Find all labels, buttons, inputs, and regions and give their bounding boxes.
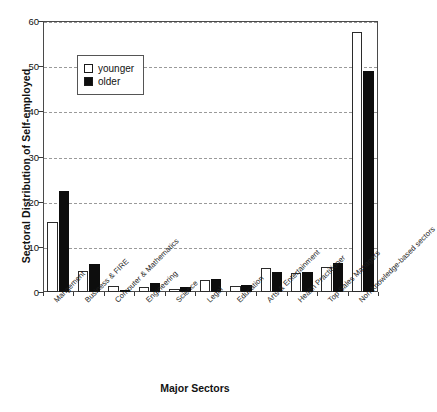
x-tick-mark xyxy=(317,292,318,296)
gridline xyxy=(44,22,377,23)
x-tick-mark xyxy=(165,292,166,296)
y-tick-mark xyxy=(38,21,43,22)
x-tick-mark xyxy=(195,292,196,296)
gridline xyxy=(44,248,377,249)
legend-label-younger: younger xyxy=(98,63,134,74)
x-tick-mark xyxy=(43,292,44,296)
open-square-swatch-icon xyxy=(84,64,93,73)
y-tick-label: 50 xyxy=(9,61,39,72)
y-tick-mark xyxy=(38,66,43,67)
y-tick-mark xyxy=(38,202,43,203)
legend-item-older: older xyxy=(84,76,134,87)
x-tick-mark xyxy=(378,292,379,296)
filled-square-swatch-icon xyxy=(84,77,93,86)
x-tick-mark xyxy=(73,292,74,296)
x-tick-mark xyxy=(134,292,135,296)
y-tick-mark xyxy=(38,111,43,112)
y-tick-mark xyxy=(38,247,43,248)
y-tick-label: 30 xyxy=(9,151,39,162)
legend-label-older: older xyxy=(98,76,120,87)
chart-legend: younger older xyxy=(77,55,144,95)
y-axis-title: Sectoral Distribution of Self-employed xyxy=(20,36,32,296)
gridline xyxy=(44,203,377,204)
y-tick-label: 20 xyxy=(9,196,39,207)
x-tick-mark xyxy=(287,292,288,296)
gridline xyxy=(44,112,377,113)
x-tick-mark xyxy=(348,292,349,296)
y-tick-label: 60 xyxy=(9,16,39,27)
x-tick-mark xyxy=(104,292,105,296)
x-tick-mark xyxy=(256,292,257,296)
y-tick-label: 0 xyxy=(9,287,39,298)
y-tick-label: 40 xyxy=(9,106,39,117)
y-tick-label: 10 xyxy=(9,241,39,252)
legend-item-younger: younger xyxy=(84,63,134,74)
x-tick-mark xyxy=(226,292,227,296)
gridline xyxy=(44,158,377,159)
y-tick-mark xyxy=(38,157,43,158)
x-axis-title: Major Sectors xyxy=(0,382,390,394)
